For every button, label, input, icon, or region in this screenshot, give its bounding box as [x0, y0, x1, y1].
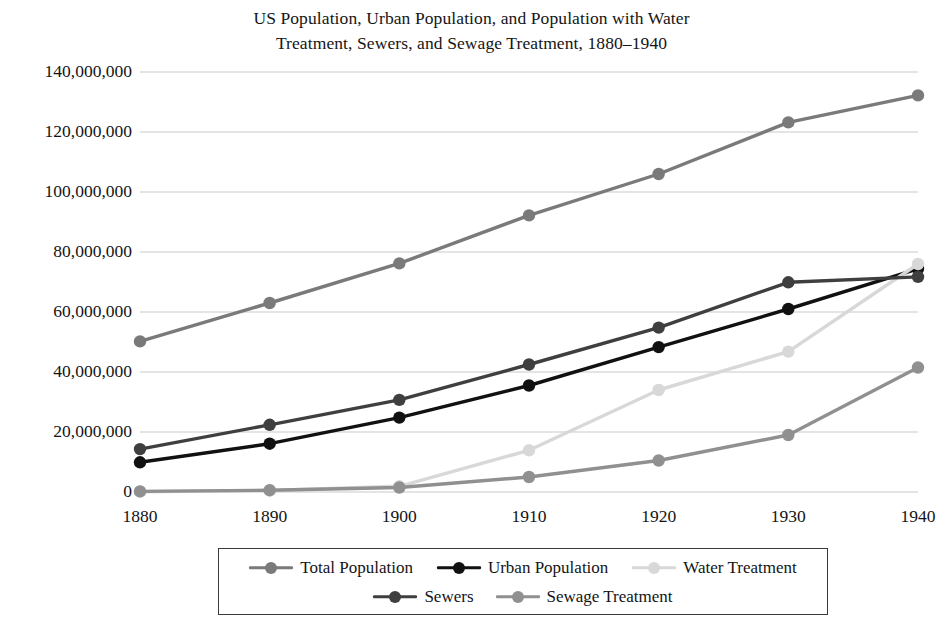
legend-marker-icon: [265, 562, 277, 574]
x-tick-label: 1940: [901, 508, 936, 526]
data-point: [782, 429, 794, 441]
legend-entry-total-population[interactable]: Total Population: [249, 559, 413, 576]
y-tick-label: 80,000,000: [7, 243, 132, 261]
data-point: [652, 384, 664, 396]
chart-title-line-2: Treatment, Sewers, and Sewage Treatment,…: [0, 31, 943, 56]
data-point: [912, 271, 924, 283]
legend-swatch-icon: [496, 590, 540, 604]
legend-swatch-icon: [437, 561, 481, 575]
data-point: [393, 411, 405, 423]
data-point: [523, 379, 535, 391]
x-tick-label: 1880: [123, 508, 158, 526]
chart-title-line-1: US Population, Urban Population, and Pop…: [0, 6, 943, 31]
legend-marker-icon: [512, 591, 524, 603]
legend-label: Urban Population: [488, 559, 608, 576]
data-point: [523, 209, 535, 221]
legend-swatch-icon: [249, 561, 293, 575]
series-layer: [134, 89, 924, 498]
y-tick-label: 20,000,000: [7, 423, 132, 441]
legend-marker-icon: [389, 591, 401, 603]
series-total-population: [134, 89, 924, 347]
y-tick-label: 60,000,000: [7, 303, 132, 321]
data-point: [134, 335, 146, 347]
legend-entry-water-treatment[interactable]: Water Treatment: [632, 559, 796, 576]
x-tick-label: 1930: [771, 508, 806, 526]
legend-label: Water Treatment: [683, 559, 796, 576]
data-point: [263, 484, 275, 496]
chart-legend: Total PopulationUrban PopulationWater Tr…: [218, 548, 828, 615]
chart-title: US Population, Urban Population, and Pop…: [0, 6, 943, 56]
data-point: [134, 456, 146, 468]
data-point: [393, 394, 405, 406]
data-point: [652, 321, 664, 333]
data-point: [393, 481, 405, 493]
x-tick-label: 1900: [382, 508, 417, 526]
data-point: [523, 358, 535, 370]
x-axis-tick-labels: 1880189019001910192019301940: [0, 508, 943, 532]
legend-swatch-icon: [632, 561, 676, 575]
data-point: [523, 471, 535, 483]
data-point: [134, 443, 146, 455]
data-point: [912, 89, 924, 101]
legend-row-top: Total PopulationUrban PopulationWater Tr…: [219, 553, 827, 582]
data-point: [263, 419, 275, 431]
data-point: [134, 485, 146, 497]
legend-entry-sewers[interactable]: Sewers: [373, 588, 473, 605]
data-point: [782, 345, 794, 357]
x-tick-label: 1890: [252, 508, 287, 526]
data-point: [652, 341, 664, 353]
legend-marker-icon: [453, 562, 465, 574]
y-axis-tick-labels: 020,000,00040,000,00060,000,00080,000,00…: [0, 0, 132, 639]
series-line: [140, 264, 918, 492]
data-point: [782, 303, 794, 315]
legend-marker-icon: [648, 562, 660, 574]
y-tick-label: 100,000,000: [7, 183, 132, 201]
legend-label: Total Population: [300, 559, 413, 576]
plot-svg: [140, 72, 918, 492]
legend-entry-sewage-treatment[interactable]: Sewage Treatment: [496, 588, 673, 605]
data-point: [782, 116, 794, 128]
legend-label: Sewers: [424, 588, 473, 605]
y-tick-label: 0: [7, 483, 132, 501]
data-point: [263, 297, 275, 309]
y-tick-label: 120,000,000: [7, 123, 132, 141]
legend-row-bottom: SewersSewage Treatment: [219, 582, 827, 611]
x-tick-label: 1920: [641, 508, 676, 526]
y-tick-label: 40,000,000: [7, 363, 132, 381]
data-point: [912, 258, 924, 270]
data-point: [393, 257, 405, 269]
legend-entry-urban-population[interactable]: Urban Population: [437, 559, 608, 576]
data-point: [782, 276, 794, 288]
x-tick-label: 1910: [512, 508, 547, 526]
data-point: [652, 454, 664, 466]
line-chart: US Population, Urban Population, and Pop…: [0, 0, 943, 639]
data-point: [263, 438, 275, 450]
y-tick-label: 140,000,000: [7, 63, 132, 81]
legend-label: Sewage Treatment: [547, 588, 673, 605]
data-point: [523, 444, 535, 456]
series-water-treatment: [134, 258, 924, 498]
data-point: [912, 361, 924, 373]
data-point: [652, 168, 664, 180]
legend-swatch-icon: [373, 590, 417, 604]
plot-area: [140, 72, 918, 492]
